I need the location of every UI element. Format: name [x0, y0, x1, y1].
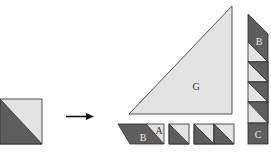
label-b: B [140, 132, 147, 143]
label-strip-b: B [256, 36, 263, 47]
parallelogram-ba: B A [118, 124, 164, 144]
arrow-right-icon [66, 113, 94, 120]
large-triangle-g: G [129, 6, 232, 114]
small-square-3 [214, 124, 234, 144]
vertical-strip: B C [248, 14, 268, 144]
label-strip-c: C [255, 129, 262, 140]
quilt-diagram: G B A B C [0, 0, 271, 154]
small-square-1 [169, 124, 189, 144]
label-g: G [192, 81, 199, 92]
small-square-2 [194, 124, 214, 144]
source-block [0, 99, 42, 144]
label-a: A [155, 125, 163, 136]
